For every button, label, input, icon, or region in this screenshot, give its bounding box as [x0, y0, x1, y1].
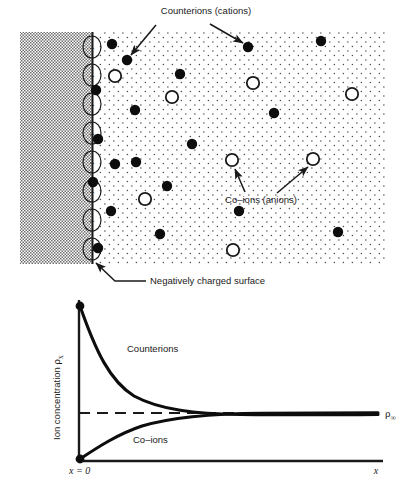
counterion [316, 36, 326, 46]
counterion [107, 39, 117, 49]
svg-text:Ion concentration ρx: Ion concentration ρx [51, 355, 65, 440]
bulk-concentration-label: ρ∞ [385, 407, 396, 422]
coions-label: Co–ions (anions) [225, 194, 297, 205]
counterions-curve-label: Counterions [127, 343, 178, 354]
coion [139, 193, 151, 205]
coion [226, 154, 238, 166]
counterion [175, 69, 185, 79]
svg-text:−: − [89, 43, 94, 53]
double-layer-panel: − − − − − − − − [20, 5, 387, 286]
y-axis-label-sub: x [56, 355, 65, 359]
counterion [93, 134, 103, 144]
rho-subscript: ∞ [391, 413, 396, 422]
x-axis-label: x [373, 465, 379, 476]
counterion [110, 159, 120, 169]
svg-text:−: − [89, 187, 94, 197]
coion [346, 88, 358, 100]
coion [109, 70, 121, 82]
svg-text:ρ∞: ρ∞ [385, 407, 396, 422]
counterion [243, 42, 253, 52]
counterion [155, 229, 165, 239]
counterions-label: Counterions (cations) [161, 5, 251, 16]
coions-curve [80, 413, 378, 459]
counterion [122, 55, 132, 65]
counterion [187, 139, 197, 149]
coions-origin-marker [76, 455, 85, 464]
svg-text:−: − [89, 158, 94, 168]
double-layer-figure: − − − − − − − − [0, 0, 409, 488]
svg-text:−: − [89, 216, 94, 226]
counterion [106, 206, 116, 216]
coion [247, 77, 259, 89]
counterion [88, 177, 98, 187]
surface-label: Negatively charged surface [150, 275, 265, 286]
counterion [91, 85, 101, 95]
svg-text:−: − [89, 71, 94, 81]
counterion [269, 108, 279, 118]
solution-region [97, 32, 387, 264]
x-origin-label: x = 0 [68, 465, 90, 476]
surface-arrow [96, 263, 146, 281]
charged-wall [20, 32, 92, 264]
counterions-origin-marker [76, 302, 85, 311]
coions-curve-label: Co–ions [133, 434, 168, 445]
counterion [131, 157, 141, 167]
counterions-curve [80, 306, 378, 415]
counterion [234, 206, 244, 216]
counterion [333, 227, 343, 237]
counterion [162, 181, 172, 191]
y-axis-label-main: Ion concentration ρ [51, 358, 62, 440]
coion [166, 91, 178, 103]
coion [307, 153, 319, 165]
counterion [130, 105, 140, 115]
counterion [93, 243, 103, 253]
svg-text:−: − [89, 100, 94, 110]
y-axis-label: Ion concentration ρx [51, 355, 65, 440]
coion [227, 244, 239, 256]
concentration-plot: Counterions Co–ions Ion concentration ρx… [51, 300, 396, 476]
